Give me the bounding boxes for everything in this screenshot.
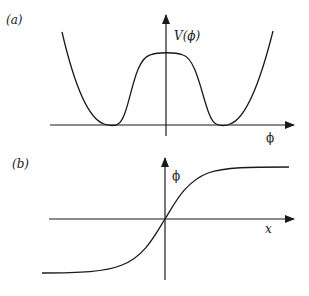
panel-b-y-axis-label: ϕ	[172, 169, 180, 183]
panel-a-label: (a)	[6, 13, 23, 27]
panel-b-x-axis-label: x	[265, 222, 272, 236]
panel-b: (b) ϕ x	[12, 157, 294, 280]
panel-a-y-axis-label: V(ϕ)	[174, 29, 201, 43]
panel-a: (a) V(ϕ) ϕ	[6, 13, 294, 145]
panel-b-label: (b)	[12, 157, 29, 171]
double-well-potential-curve	[62, 31, 273, 126]
figure-canvas: (a) V(ϕ) ϕ (b) ϕ x	[0, 0, 309, 296]
panel-a-x-axis-label: ϕ	[266, 131, 274, 145]
